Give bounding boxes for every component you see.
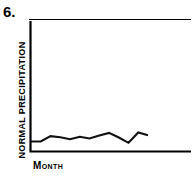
figure-container: 6. NORMAL PRECIPITATION MONTH (0, 0, 191, 183)
plot-area (0, 0, 191, 183)
axis-lines (31, 22, 192, 152)
x-axis-label: MONTH (33, 160, 63, 171)
y-axis-label: NORMAL PRECIPITATION (17, 40, 27, 160)
precipitation-line (31, 133, 148, 143)
line-chart-graphic (0, 0, 191, 183)
